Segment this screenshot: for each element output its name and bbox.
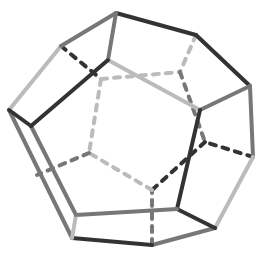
hidden-edge-RS <box>152 142 205 190</box>
hidden-edge-PT <box>89 79 101 153</box>
edge-KL <box>177 110 200 209</box>
hidden-edge-BQ <box>180 35 196 72</box>
edge-EL <box>177 209 215 228</box>
hidden-edge-DR <box>205 142 253 157</box>
edge-IA <box>61 13 116 46</box>
hidden-edge-IP <box>61 46 101 79</box>
wireframe-canvas <box>0 0 263 254</box>
edge-LM <box>76 209 177 215</box>
dodecahedron-diagram <box>0 0 263 254</box>
edge-CD <box>250 86 253 157</box>
edge-EF <box>152 228 215 245</box>
edge-AB <box>116 13 196 35</box>
hidden-edge-ST <box>89 153 152 190</box>
edge-DE <box>215 157 253 228</box>
edge-HI <box>9 46 61 110</box>
edge-FG <box>72 238 152 245</box>
edge-GM <box>72 215 76 238</box>
edge-AJ <box>108 13 116 60</box>
edge-GH <box>9 110 72 238</box>
edge-BC <box>196 35 250 86</box>
edge-CK <box>200 86 250 110</box>
